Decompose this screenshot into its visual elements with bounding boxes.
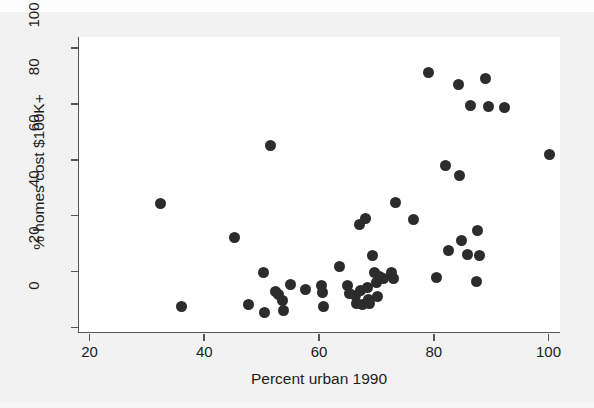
x-tick-label: 60 [289,344,349,359]
data-point [300,284,311,295]
y-tick-mark [71,271,78,273]
x-tick-mark [433,334,435,341]
x-tick-label: 40 [174,344,234,359]
data-points-layer [79,37,560,332]
data-point [456,235,467,246]
data-point [243,299,254,310]
x-tick-label: 80 [404,344,464,359]
data-point [367,250,378,261]
data-point [334,261,345,272]
data-point [480,73,491,84]
data-point [465,100,476,111]
data-point [372,291,383,302]
y-tick-mark [71,215,78,217]
data-point [423,67,434,78]
y-tick-label: 100 [26,3,41,69]
data-point [472,225,483,236]
y-tick-mark [71,327,78,329]
x-tick-label: 100 [519,344,579,359]
data-point [471,276,482,287]
x-tick-mark [89,334,91,341]
data-point [443,245,454,256]
data-point [474,250,485,261]
y-tick-mark [71,103,78,105]
data-point [462,249,473,260]
data-point [318,301,329,312]
data-point [229,232,240,243]
data-point [265,140,276,151]
data-point [176,301,187,312]
data-point [285,279,296,290]
data-point [408,214,419,225]
data-point [258,267,269,278]
data-point [499,102,510,113]
data-point [155,198,166,209]
x-tick-mark [548,334,550,341]
x-tick-mark [318,334,320,341]
data-point [453,79,464,90]
x-axis-title: Percent urban 1990 [78,370,560,388]
data-point [483,101,494,112]
data-point [360,213,371,224]
data-point [544,149,555,160]
x-tick-label: 20 [59,344,119,359]
plot-area [78,37,560,333]
data-point [431,272,442,283]
data-point [278,305,289,316]
data-point [259,307,270,318]
figure: % homes cost $100K+ Percent urban 1990 0… [0,0,594,408]
data-point [390,197,401,208]
data-point [317,287,328,298]
data-point [440,160,451,171]
y-tick-mark [71,47,78,49]
scatter-plot-screenshot: % homes cost $100K+ Percent urban 1990 0… [0,0,594,408]
x-tick-mark [203,334,205,341]
data-point [454,170,465,181]
data-point [388,273,399,284]
y-tick-mark [71,159,78,161]
